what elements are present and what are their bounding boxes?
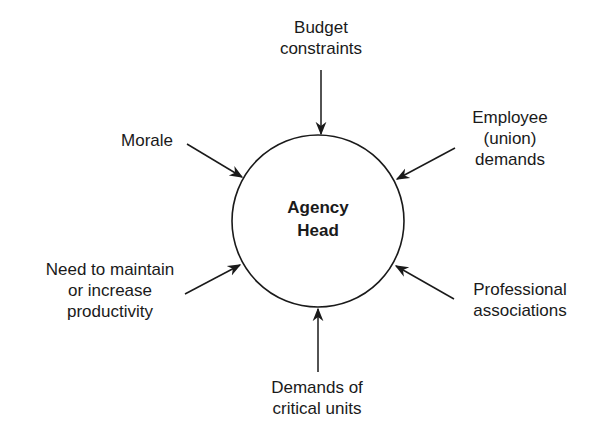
- arrow-morale: [187, 144, 242, 177]
- center-node-label: Agency Head: [268, 196, 368, 242]
- influence-label-professional: Professional associations: [450, 279, 590, 321]
- influence-label-productivity: Need to maintain or increase productivit…: [20, 259, 200, 322]
- influence-label-employee: Employee (union) demands: [445, 107, 575, 170]
- influence-label-critical-units: Demands of critical units: [247, 377, 387, 419]
- arrow-professional: [396, 266, 454, 299]
- influence-label-morale: Morale: [112, 130, 182, 151]
- influence-label-budget: Budget constraints: [251, 17, 391, 59]
